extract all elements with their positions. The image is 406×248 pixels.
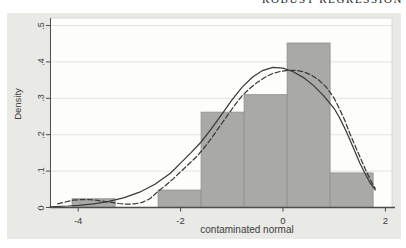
histogram-bar [201, 112, 244, 207]
y-axis-tick-label: .5 [36, 22, 46, 30]
y-axis-title: Density [12, 88, 23, 120]
x-axis-tick-label: 0 [280, 215, 285, 226]
x-axis-tick-label: -4 [74, 215, 82, 226]
running-head-text: ROBUST REGRESSION [262, 0, 403, 5]
histogram-bar [244, 95, 287, 208]
histogram-bar [330, 173, 373, 208]
histogram-bar [72, 199, 115, 208]
x-axis-tick-label: -2 [176, 215, 184, 226]
y-axis-tick-label: .3 [36, 95, 46, 103]
y-axis-tick-label: .1 [36, 167, 46, 175]
chart-svg [44, 12, 400, 214]
y-axis-tick-label: .4 [36, 58, 46, 66]
x-axis-tick-label: 2 [383, 215, 388, 226]
histogram-bar [158, 190, 201, 207]
y-axis-tick-label: .2 [36, 131, 46, 139]
y-axis-tick-label: 0 [36, 205, 46, 210]
histogram-bar [287, 43, 330, 208]
page: ROBUST REGRESSION Density contaminated n… [0, 0, 406, 248]
page-header: ROBUST REGRESSION [0, 0, 403, 5]
